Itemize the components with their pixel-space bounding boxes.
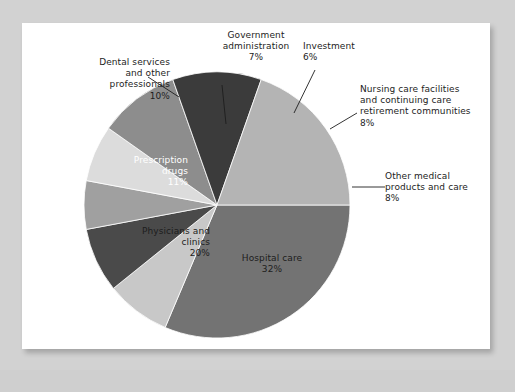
slice-label-other-medical: Other medical products and care 8% <box>385 171 485 205</box>
slice-label-physicians-clinics: Physicians and clinics 20% <box>112 226 210 260</box>
page-background-strip <box>0 370 515 392</box>
slice-label-hospital-care: Hospital care 32% <box>224 253 320 275</box>
page-root: Government administration 7% Investment … <box>0 0 515 392</box>
figure-card: Government administration 7% Investment … <box>22 23 490 349</box>
slice-label-government: Government administration 7% <box>201 30 311 64</box>
leader-line-nursing <box>330 113 357 129</box>
slice-label-prescription-drugs: Prescription drugs 11% <box>106 155 188 189</box>
slice-label-dental-services: Dental services and other professionals … <box>60 57 170 102</box>
slice-label-nursing-care: Nursing care facilities and continuing c… <box>360 84 490 129</box>
pie-slice-group <box>84 72 350 338</box>
pie-chart: Government administration 7% Investment … <box>22 23 490 349</box>
slice-label-investment: Investment 6% <box>303 41 383 63</box>
